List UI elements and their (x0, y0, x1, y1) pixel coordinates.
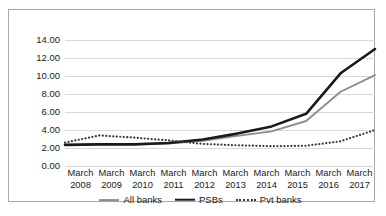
x-axis-tick-label: March2016 (313, 168, 344, 194)
x-tick-month: March (65, 168, 96, 180)
x-axis-tick-label: March2014 (251, 168, 282, 194)
x-tick-month: March (220, 168, 251, 180)
legend-swatch-icon (236, 196, 256, 203)
x-tick-month: March (189, 168, 220, 180)
x-tick-year: 2008 (65, 180, 96, 192)
x-axis-tick-label: March2012 (189, 168, 220, 194)
legend-item-psbs[interactable]: PSBs (175, 195, 223, 205)
legend-item-all-banks[interactable]: All banks (99, 195, 162, 205)
y-axis-tick-label: 8.00 (42, 89, 61, 99)
x-tick-year: 2011 (158, 180, 189, 192)
legend-item-pvt-banks[interactable]: Pvt banks (236, 195, 302, 205)
series-canvas (65, 40, 375, 166)
legend-swatch-icon (99, 196, 119, 203)
x-tick-month: March (313, 168, 344, 180)
x-tick-month: March (282, 168, 313, 180)
x-tick-month: March (158, 168, 189, 180)
legend-label: PSBs (199, 195, 223, 205)
y-axis-tick-label: 2.00 (42, 143, 61, 153)
y-axis-tick-label: 14.00 (36, 35, 60, 45)
x-axis-tick-label: March2011 (158, 168, 189, 194)
x-tick-month: March (344, 168, 375, 180)
x-tick-year: 2015 (282, 180, 313, 192)
x-tick-year: 2012 (189, 180, 220, 192)
chart-legend: All banksPSBsPvt banks (17, 195, 384, 205)
x-tick-year: 2009 (96, 180, 127, 192)
gridline (65, 166, 375, 167)
x-axis-tick-label: March2017 (344, 168, 375, 194)
legend-label: All banks (123, 195, 162, 205)
y-axis-tick-label: 12.00 (36, 53, 60, 63)
plot-area: 0.002.004.006.008.0010.0012.0014.00 (65, 40, 375, 166)
x-axis-tick-label: March2009 (96, 168, 127, 194)
x-axis-tick-label: March2015 (282, 168, 313, 194)
legend-swatch-icon (175, 196, 195, 203)
y-axis-tick-label: 6.00 (42, 107, 61, 117)
x-tick-year: 2010 (127, 180, 158, 192)
y-axis-tick-label: 0.00 (42, 161, 61, 171)
legend-label: Pvt banks (260, 195, 302, 205)
x-axis-labels: March2008March2009March2010March2011Marc… (65, 168, 375, 194)
x-tick-year: 2016 (313, 180, 344, 192)
x-axis-tick-label: March2008 (65, 168, 96, 194)
x-axis-tick-label: March2013 (220, 168, 251, 194)
x-tick-year: 2014 (251, 180, 282, 192)
series-line-psbs (65, 49, 375, 145)
x-tick-month: March (96, 168, 127, 180)
x-tick-month: March (127, 168, 158, 180)
y-axis-tick-label: 10.00 (36, 71, 60, 81)
chart-frame: 0.002.004.006.008.0010.0012.0014.00 Marc… (8, 9, 375, 202)
x-tick-month: March (251, 168, 282, 180)
x-tick-year: 2013 (220, 180, 251, 192)
y-axis-tick-label: 4.00 (42, 125, 61, 135)
x-axis-tick-label: March2010 (127, 168, 158, 194)
x-tick-year: 2017 (344, 180, 375, 192)
